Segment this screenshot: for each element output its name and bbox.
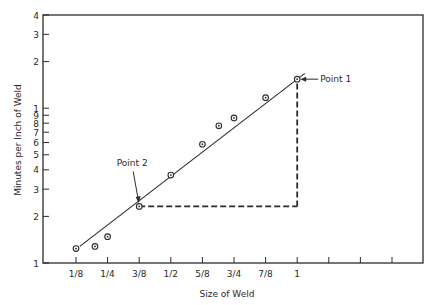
x-tick-label: 3/4 [227, 269, 242, 279]
y-tick-label: 3 [33, 30, 39, 40]
data-point-dot [138, 206, 140, 208]
x-tick-label: 1 [294, 269, 300, 279]
data-point-dot [296, 78, 298, 80]
point-2-label: Point 2 [117, 158, 148, 168]
data-point-dot [75, 248, 77, 250]
x-tick-label: 5/8 [195, 269, 210, 279]
annotations: Point 1Point 2 [117, 74, 351, 203]
data-point-dot [218, 125, 220, 127]
data-point-dot [94, 246, 96, 248]
y-tick-label: 5 [33, 150, 39, 160]
regression-line [80, 73, 305, 246]
x-axis-ticks: 1/81/43/81/25/83/47/81 [69, 257, 392, 279]
x-tick-label: 7/8 [258, 269, 273, 279]
y-tick-label: 6 [33, 138, 39, 148]
y-axis-ticks: 1234567891234 [33, 11, 49, 269]
x-tick-label: 1/8 [69, 269, 84, 279]
point-1-arrowhead-icon [300, 77, 306, 82]
y-tick-label: 3 [33, 185, 39, 195]
x-tick-label: 3/8 [132, 269, 147, 279]
data-point-dot [170, 174, 172, 176]
y-tick-label: 4 [33, 11, 39, 21]
data-point-dot [202, 143, 204, 145]
y-tick-label: 1 [33, 104, 39, 114]
x-tick-label: 1/2 [164, 269, 178, 279]
point-1-label: Point 1 [320, 74, 351, 84]
y-axis-title: Minutes per Inch of Weld [13, 84, 23, 196]
dashed-guides [139, 79, 297, 206]
y-tick-label: 2 [33, 212, 39, 222]
y-tick-label: 4 [33, 165, 39, 175]
data-point-dot [107, 236, 109, 238]
x-tick-label: 1/4 [100, 269, 115, 279]
point-2-arrowhead-icon [136, 196, 141, 203]
plot-frame [43, 15, 423, 263]
fit-line [80, 73, 305, 246]
data-point-dot [265, 97, 267, 99]
x-axis-title: Size of Weld [200, 289, 255, 299]
y-tick-label: 7 [33, 128, 39, 138]
y-tick-label: 2 [33, 57, 39, 67]
data-point-dot [233, 117, 235, 119]
plot-border [43, 15, 423, 263]
weld-time-chart: 1234567891234 1/81/43/81/25/83/47/81 Poi… [0, 0, 434, 305]
point-2-arrow-shaft [133, 171, 138, 199]
y-tick-label: 1 [33, 259, 39, 269]
